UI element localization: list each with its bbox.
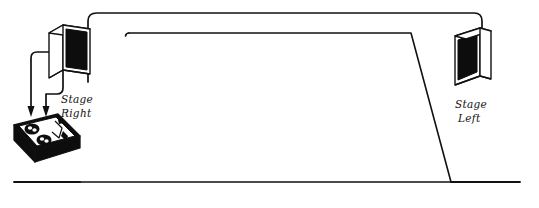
right-speaker-cabinet bbox=[455, 28, 491, 85]
stage-left-label-line1: Stage bbox=[455, 98, 487, 110]
mixer-knob-2-highlight-b bbox=[44, 139, 48, 142]
mixer-knob-1 bbox=[25, 124, 40, 135]
mixer-knob-1-body bbox=[25, 124, 40, 135]
stage-right-label-line1: Stage bbox=[61, 93, 93, 105]
mixer-knob-2 bbox=[37, 135, 52, 146]
left-speaker-cabinet bbox=[49, 25, 90, 78]
stage-diagram-canvas: Stage Right Stage Left bbox=[0, 0, 539, 208]
left-speaker-grille bbox=[66, 29, 87, 70]
stage-right-label-line2: Right bbox=[60, 107, 92, 119]
right-speaker-side-panel bbox=[480, 28, 491, 79]
mixer-knob-2-body bbox=[37, 135, 52, 146]
mixer-knob-1-highlight-a bbox=[28, 126, 32, 129]
stage-diagram-svg: Stage Right Stage Left bbox=[0, 0, 539, 208]
right-speaker-grille bbox=[458, 33, 477, 80]
stage-left-label-line2: Left bbox=[457, 112, 481, 124]
mixer-knob-2-highlight-a bbox=[40, 137, 44, 140]
mixer-knob-1-highlight-b bbox=[32, 128, 36, 131]
